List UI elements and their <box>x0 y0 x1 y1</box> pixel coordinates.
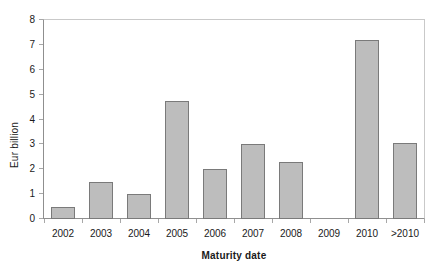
y-axis-tick-label: 5 <box>29 89 35 101</box>
y-axis-tick: 8 <box>0 14 43 26</box>
bar-series <box>44 20 424 219</box>
x-axis-title: Maturity date <box>44 250 424 261</box>
y-axis-tick-label: 2 <box>29 163 35 175</box>
y-axis-tick-label: 1 <box>29 188 35 200</box>
bar-gt2010[interactable] <box>393 143 417 219</box>
y-axis-tick: 5 <box>0 89 43 101</box>
bar-slot <box>348 20 386 219</box>
x-axis-tick-mark <box>196 219 197 223</box>
bar-chart-figure: Eur billion 876543210 200220032004200520… <box>0 0 442 276</box>
bar-2005[interactable] <box>165 101 189 219</box>
bar-slot <box>234 20 272 219</box>
bar-2007[interactable] <box>241 144 265 219</box>
x-axis-tick-mark <box>424 219 425 223</box>
y-axis-tick-group: 876543210 <box>0 0 43 240</box>
x-axis-tick-mark <box>44 219 45 223</box>
x-axis-tick-labels: 200220032004200520062007200820092010>201… <box>44 226 424 242</box>
x-axis-tick-mark <box>310 219 311 223</box>
y-axis-tick: 1 <box>0 188 43 200</box>
bar-2004[interactable] <box>127 194 151 219</box>
bar-slot <box>82 20 120 219</box>
y-axis-tick-label: 4 <box>29 114 35 126</box>
x-axis-tick-label: 2010 <box>348 226 386 242</box>
x-axis-tick-label: 2005 <box>158 226 196 242</box>
x-axis-tick-mark <box>120 219 121 223</box>
x-axis-tick-mark <box>348 219 349 223</box>
bar-2003[interactable] <box>89 182 113 219</box>
bar-slot <box>44 20 82 219</box>
x-axis-tick-mark <box>386 219 387 223</box>
bar-slot <box>386 20 424 219</box>
x-axis-tick-mark <box>82 219 83 223</box>
y-axis-tick-label: 7 <box>29 39 35 51</box>
y-axis-tick-label: 8 <box>29 14 35 26</box>
bar-slot <box>272 20 310 219</box>
x-axis-tick-group <box>44 219 424 224</box>
x-axis-tick-label: 2008 <box>272 226 310 242</box>
y-axis-tick: 6 <box>0 64 43 76</box>
y-axis-tick-label: 0 <box>29 213 35 225</box>
bar-2010[interactable] <box>355 40 379 219</box>
y-axis-tick: 7 <box>0 39 43 51</box>
bar-2006[interactable] <box>203 169 227 219</box>
y-axis-tick-label: 6 <box>29 64 35 76</box>
x-axis-tick-label: 2004 <box>120 226 158 242</box>
x-axis-tick-label: 2007 <box>234 226 272 242</box>
y-axis-tick: 2 <box>0 163 43 175</box>
x-axis-tick-label: 2009 <box>310 226 348 242</box>
bar-2008[interactable] <box>279 162 303 219</box>
x-axis-tick-label: >2010 <box>386 226 424 242</box>
bar-slot <box>310 20 348 219</box>
y-axis-tick: 0 <box>0 213 43 225</box>
bar-slot <box>120 20 158 219</box>
x-axis-tick-label: 2003 <box>82 226 120 242</box>
x-axis-tick-mark <box>234 219 235 223</box>
x-axis-tick-label: 2002 <box>44 226 82 242</box>
bar-slot <box>196 20 234 219</box>
y-axis-tick-label: 3 <box>29 138 35 150</box>
x-axis-tick-label: 2006 <box>196 226 234 242</box>
x-axis-tick-mark <box>158 219 159 223</box>
bar-2002[interactable] <box>51 207 75 219</box>
x-axis-tick-mark <box>272 219 273 223</box>
y-axis-tick: 4 <box>0 114 43 126</box>
bar-slot <box>158 20 196 219</box>
y-axis-tick: 3 <box>0 138 43 150</box>
